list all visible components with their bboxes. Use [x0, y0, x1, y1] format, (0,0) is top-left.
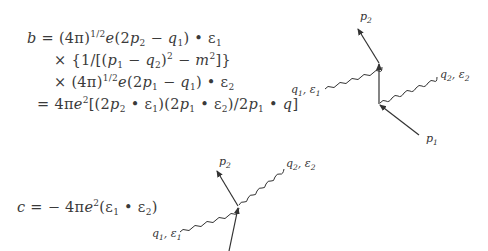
q2-photon-line: [380, 77, 437, 103]
q1-photon-line: [180, 208, 239, 232]
label-q2-top: q2, ε2: [440, 68, 470, 83]
label-p2-bottom: p2: [219, 155, 231, 170]
feynman-diagrams: p2 p1 q1, ε1 q2, ε2 p2 q1, ε1 q2, ε2: [0, 0, 488, 251]
label-p2-top: p2: [360, 10, 372, 25]
diagram-top: p2 p1 q1, ε1 q2, ε2: [291, 10, 470, 147]
p1-line: [380, 105, 419, 135]
p2-line: [358, 29, 379, 63]
diagram-bottom: p2 q1, ε1 q2, ε2: [152, 155, 316, 251]
label-q1-bottom: q1, ε1: [152, 227, 182, 242]
q2-photon-line: [239, 169, 284, 205]
label-q2-bottom: q2, ε2: [286, 157, 316, 172]
label-q1-top: q1, ε1: [291, 83, 321, 98]
label-p1-top: p1: [426, 132, 438, 147]
p1-line: [229, 208, 238, 251]
p2-line: [217, 171, 238, 206]
q1-photon-line: [325, 67, 382, 89]
